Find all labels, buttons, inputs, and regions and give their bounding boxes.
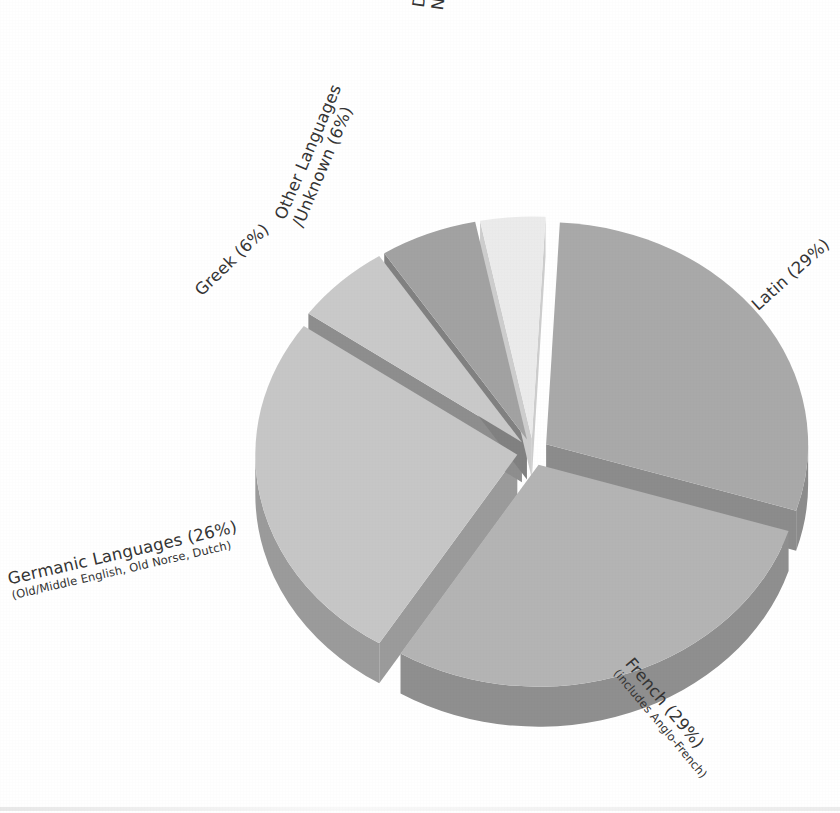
pie-chart-figure: Latin (29%) French (29%) (includes Anglo…: [0, 0, 840, 813]
pie-chart-graphic: [0, 0, 840, 813]
